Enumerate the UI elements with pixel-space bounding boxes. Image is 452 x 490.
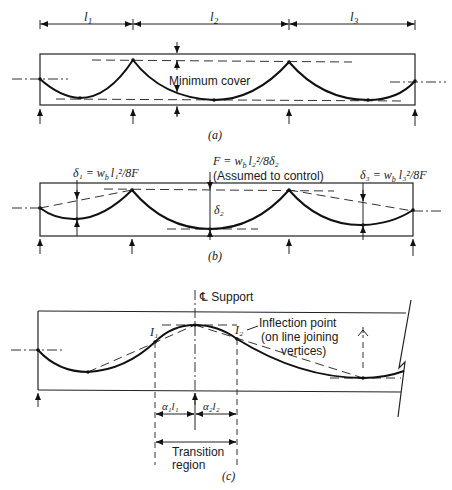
delta1-formula: δ₁ = wbl₁²/8F [73, 166, 139, 182]
inflection-i1-label: I₁ [149, 325, 158, 339]
support-arrows-b [40, 239, 413, 256]
chord-line-span1 [40, 190, 132, 208]
support-label: ℄ Support [199, 290, 254, 304]
inflection-leader-line [247, 326, 258, 330]
alpha2-label: α₂l₂ [203, 400, 220, 412]
transition-label-line1: Transition [172, 445, 224, 459]
break-line [398, 300, 411, 417]
support-arrows-a [40, 109, 415, 126]
panel-c: ℄ Support I₁ I₂ Inflection point (on lin… [11, 290, 411, 483]
inflection-i2-label: I₂ [234, 323, 243, 337]
panel-a: l1 l2 l3 Minimum cover [12, 9, 446, 142]
force-formula: F = wbl₂²/8δ₂ [212, 154, 279, 170]
prestressed-tendon-profile-diagram: l1 l2 l3 Minimum cover [0, 0, 452, 490]
panel-b: δ₁ = wbl₁²/8F F = wbl₂²/8δ₂ (Assumed to … [12, 154, 443, 263]
caption-b: (b) [208, 249, 222, 263]
upward-marker [358, 327, 368, 368]
force-assumption-note: (Assumed to control) [213, 169, 324, 183]
minimum-cover-label: Minimum cover [169, 74, 250, 88]
top-tangent-line [104, 189, 334, 191]
span-label-l3: l3 [350, 9, 359, 26]
span-dimension-line [40, 19, 415, 30]
delta3-formula: δ₃ = wbl₃²/8F [360, 168, 427, 184]
delta2-label: δ₂ [214, 203, 224, 217]
inflection-label-line3: vertices) [281, 344, 326, 358]
beam-outline [38, 300, 411, 417]
chord-line-left [88, 325, 195, 372]
inflection-label-line1: Inflection point [259, 316, 337, 330]
caption-a: (a) [208, 128, 222, 142]
alpha1-label: α₁l₁ [162, 400, 179, 412]
span-label-l2: l2 [210, 9, 219, 26]
tendon-profile-b [40, 190, 413, 229]
transition-label-line2: region [172, 458, 205, 472]
span-label-l1: l1 [84, 9, 92, 26]
caption-c: (c) [222, 469, 235, 483]
inflection-label-line2: (on line joining [261, 330, 338, 344]
